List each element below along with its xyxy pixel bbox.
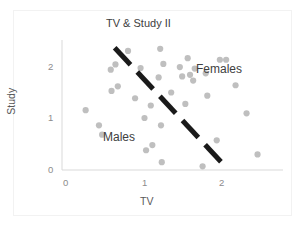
data-point — [132, 95, 138, 101]
data-point — [185, 55, 191, 61]
data-point — [149, 142, 155, 148]
y-axis-title: Study — [6, 88, 17, 115]
data-point — [199, 163, 205, 169]
data-point — [177, 64, 183, 70]
data-point — [254, 151, 260, 157]
data-point — [156, 74, 162, 80]
x-tick-label-1: 1 — [142, 178, 147, 188]
y-tick-label-2: 2 — [48, 62, 53, 72]
divider-dash-segment — [182, 121, 198, 138]
data-point — [148, 102, 154, 108]
data-point — [204, 93, 210, 99]
data-point — [115, 83, 121, 89]
data-point — [83, 107, 89, 113]
data-point — [159, 159, 165, 165]
scatter-plot-screenshot: TV & Study II TV Study 2 1 0 0 1 2 Femal… — [0, 0, 305, 227]
x-tick-label-2: 2 — [219, 178, 224, 188]
data-point — [243, 110, 249, 116]
divider-dash-segment — [137, 72, 153, 89]
annotation-males: Males — [103, 131, 135, 143]
data-point — [137, 65, 143, 71]
data-point — [96, 122, 102, 128]
data-point — [125, 48, 131, 54]
data-point — [141, 115, 147, 121]
data-point — [187, 72, 193, 78]
y-tick-label-1: 1 — [48, 113, 53, 123]
annotation-females: Females — [196, 63, 242, 75]
divider-dash-segment — [205, 145, 221, 162]
data-point — [190, 77, 196, 83]
y-tick-label-0: 0 — [48, 165, 53, 175]
data-point — [158, 122, 164, 128]
data-point — [143, 147, 149, 153]
data-point — [108, 67, 114, 73]
data-point — [214, 137, 220, 143]
x-tick-label-0: 0 — [63, 178, 68, 188]
data-point — [112, 61, 118, 67]
data-point — [168, 89, 174, 95]
axis-lines — [62, 40, 283, 170]
plot-canvas — [0, 0, 305, 227]
data-point — [108, 88, 114, 94]
x-axis-title: TV — [140, 196, 153, 207]
data-point — [232, 82, 238, 88]
chart-title: TV & Study II — [106, 18, 171, 29]
data-point — [157, 46, 163, 52]
data-point — [182, 101, 188, 107]
divider-dash-segment — [160, 96, 176, 113]
data-point — [160, 61, 166, 67]
data-point — [179, 73, 185, 79]
